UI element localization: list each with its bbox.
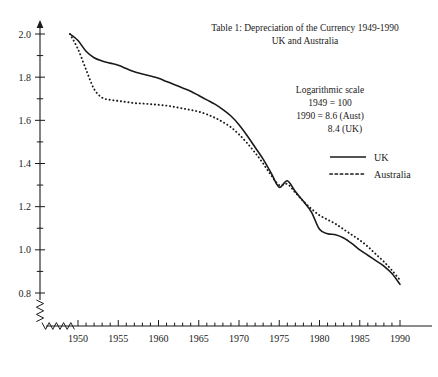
x-tick-label: 1955	[108, 333, 128, 344]
annotation-line-4: 8.4 (UK)	[328, 124, 362, 135]
annotation-line-3: 1990 = 8.6 (Aust)	[296, 111, 364, 122]
chart-axes	[35, 20, 432, 329]
x-axis-break-mark	[42, 323, 74, 330]
x-tick-label: 1965	[189, 333, 209, 344]
x-tick-label: 1990	[390, 333, 410, 344]
chart-root: Table 1: Depreciation of the Currency 19…	[0, 0, 438, 377]
chart-legend: UK Australia	[330, 152, 411, 180]
depreciation-line-chart: Table 1: Depreciation of the Currency 19…	[0, 0, 438, 377]
annotation-line-1: Logarithmic scale	[296, 85, 364, 95]
x-tick-label: 1950	[68, 333, 88, 344]
y-axis-break-mark	[36, 300, 43, 322]
x-tick-label: 1980	[310, 333, 330, 344]
y-tick-label: 1.6	[19, 115, 32, 126]
y-axis-arrow	[37, 20, 44, 28]
x-tick-label: 1975	[269, 333, 289, 344]
x-tick-label: 1985	[350, 333, 370, 344]
y-tick-label: 0.8	[19, 288, 32, 299]
x-tick-label: 1960	[149, 333, 169, 344]
chart-subtitle: UK and Australia	[272, 36, 339, 46]
annotation-line-2: 1949 = 100	[308, 98, 352, 108]
series-line-uk	[70, 34, 400, 284]
y-tick-label: 1.8	[19, 72, 32, 83]
x-tick-label: 1970	[229, 333, 249, 344]
chart-series-group	[70, 34, 400, 284]
legend-label-australia: Australia	[374, 169, 411, 180]
axis-tick-labels: 0.81.01.21.41.61.82.01950195519601965197…	[19, 29, 411, 344]
y-tick-label: 1.2	[19, 201, 32, 212]
y-tick-label: 1.0	[19, 244, 32, 255]
y-tick-label: 1.4	[19, 158, 32, 169]
chart-title: Table 1: Depreciation of the Currency 19…	[211, 23, 399, 33]
y-tick-label: 2.0	[19, 29, 32, 40]
legend-label-uk: UK	[374, 152, 389, 163]
